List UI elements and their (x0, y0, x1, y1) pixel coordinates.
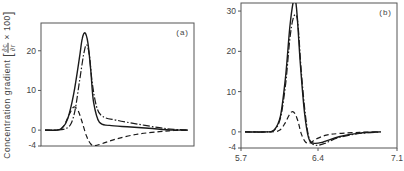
y-axis-label-text: Concentration gradient (2, 60, 12, 159)
series-dashed (245, 112, 381, 144)
bracket-close: ] (1, 11, 15, 15)
y-tick-label: 0 (231, 127, 236, 137)
series-solid (45, 33, 188, 130)
y-tick-label: 20 (27, 46, 37, 56)
y-tick-label: -4 (228, 142, 236, 152)
y-tick-label: 20 (227, 46, 237, 56)
panel-b: 0102030-45.76.47.1(b) (227, 0, 404, 163)
panel-a: 01020-4(a) (27, 23, 194, 150)
derivative-fraction: ∂c∂r (1, 43, 16, 53)
bracket-open: [ (1, 53, 15, 57)
y-tick-label: 30 (227, 6, 237, 16)
series-solid (245, 0, 381, 143)
figure-canvas: 01020-4(a)0102030-45.76.47.1(b) (0, 0, 404, 171)
y-axis-label: Concentration gradient [∂c∂r × 100] (1, 2, 15, 168)
plot-frame (241, 3, 397, 148)
x-tick-label: 7.1 (391, 153, 403, 163)
series-dash-dot (45, 45, 188, 130)
y-axis-label-suffix: × 100 (2, 15, 12, 40)
x-tick-label: 6.4 (312, 153, 324, 163)
y-tick-label: -4 (28, 140, 36, 150)
panel-label: (b) (379, 8, 392, 17)
x-tick-label: 5.7 (235, 153, 247, 163)
fraction-numerator: ∂c (1, 43, 9, 53)
series-dash-dot (245, 15, 381, 146)
panel-label: (a) (176, 28, 189, 37)
plot-frame (41, 23, 194, 146)
y-tick-label: 10 (27, 85, 37, 95)
fraction-denominator: ∂r (9, 43, 16, 53)
y-tick-label: 10 (227, 87, 237, 97)
y-tick-label: 0 (31, 125, 36, 135)
